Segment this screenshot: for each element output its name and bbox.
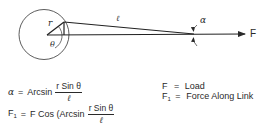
connecting-link xyxy=(64,22,194,34)
equation-alpha: α = Arcsin r Sin θ ℓ xyxy=(8,82,82,102)
equation-f1: F1 = F Cos (Arcsin r Sin θ ℓ xyxy=(8,104,114,124)
label-link-length: ℓ xyxy=(116,15,119,23)
centerline xyxy=(47,34,245,35)
theta-arc xyxy=(55,26,62,48)
eq-f1-lhs: F1 xyxy=(8,109,17,119)
label-link-angle: α xyxy=(200,16,206,25)
eq-f1-fraction: r Sin θ ℓ xyxy=(88,104,115,124)
label-load: F xyxy=(250,29,256,39)
eq-alpha-func: Arcsin xyxy=(27,88,52,97)
legend-force-along-link: F1 = Force Along Link xyxy=(162,92,253,102)
eq-alpha-op: = xyxy=(18,88,23,97)
eq-alpha-denominator: ℓ xyxy=(67,93,71,103)
eq-f1-rhs-prefix: F Cos (Arcsin xyxy=(30,110,85,119)
eq-alpha-lhs: α xyxy=(8,88,14,97)
alpha-arrow-bottom xyxy=(193,38,197,46)
eq-alpha-fraction: r Sin θ ℓ xyxy=(55,82,82,102)
alpha-arrow-top xyxy=(193,25,197,31)
eq-alpha-numerator: r Sin θ xyxy=(55,82,82,93)
eq-f1-denominator: ℓ xyxy=(99,115,103,125)
eq-f1-numerator: r Sin θ xyxy=(88,104,115,115)
label-crank-radius: r xyxy=(48,19,52,28)
eq-f1-op: = xyxy=(21,110,26,119)
label-crank-angle: θ xyxy=(50,41,55,49)
